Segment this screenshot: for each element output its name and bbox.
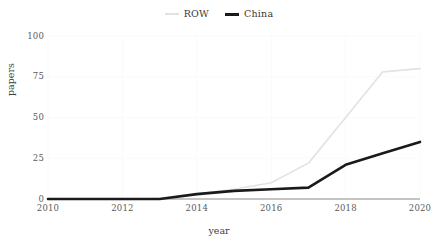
x-tick-label: 2010 bbox=[26, 203, 70, 213]
line-chart-figure: ROW China 0255075100 papers 201020122014… bbox=[0, 0, 438, 246]
plot-svg bbox=[48, 36, 420, 199]
legend-swatch-row bbox=[165, 13, 179, 15]
legend-entry-row: ROW bbox=[165, 9, 209, 19]
y-tick-label: 25 bbox=[2, 154, 44, 163]
y-axis-label: papers bbox=[6, 63, 16, 96]
plot-area bbox=[48, 36, 420, 199]
legend-label-china: China bbox=[244, 9, 273, 19]
x-axis-label: year bbox=[0, 225, 438, 236]
legend-label-row: ROW bbox=[184, 9, 209, 19]
x-tick-label: 2018 bbox=[324, 203, 368, 213]
x-tick-label: 2012 bbox=[100, 203, 144, 213]
x-tick-label: 2014 bbox=[175, 203, 219, 213]
series-line-row bbox=[48, 69, 420, 199]
legend-entry-china: China bbox=[225, 9, 273, 19]
series-line-china bbox=[48, 142, 420, 199]
y-tick-label: 100 bbox=[2, 32, 44, 41]
y-tick-label: 50 bbox=[2, 113, 44, 122]
x-tick-label: 2020 bbox=[398, 203, 438, 213]
legend-swatch-china bbox=[225, 13, 239, 16]
chart-legend: ROW China bbox=[0, 7, 438, 21]
x-tick-label: 2016 bbox=[249, 203, 293, 213]
